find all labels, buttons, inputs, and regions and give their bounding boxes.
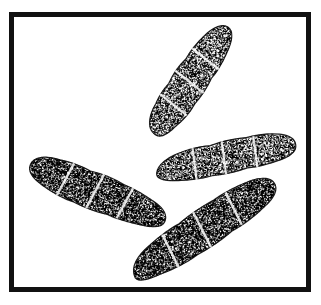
spore-illustration: [0, 0, 321, 305]
